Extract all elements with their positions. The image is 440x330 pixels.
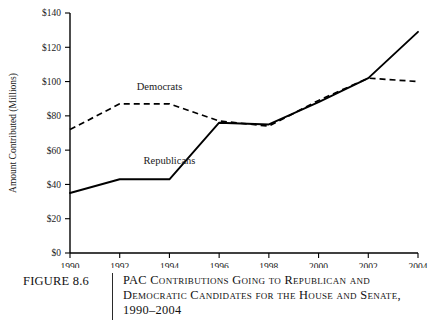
y-tick-label-$80: $80 xyxy=(47,111,62,121)
caption-line-2: 1990–2004 xyxy=(123,303,440,318)
x-tick-label-1994: 1994 xyxy=(160,262,179,268)
y-axis-title: Amount Contributed (Millions) xyxy=(8,73,19,193)
x-tick-label-1998: 1998 xyxy=(259,262,278,268)
series-label-democrats: Democrats xyxy=(137,81,182,92)
x-tick-label-2004: 2004 xyxy=(409,262,428,268)
x-tick-label-2000: 2000 xyxy=(309,262,328,268)
y-tick-label-$100: $100 xyxy=(42,77,61,87)
caption-line-0: PAC Contributions Going to Republican an… xyxy=(123,273,440,288)
x-tick-label-1996: 1996 xyxy=(210,262,229,268)
caption-text: PAC Contributions Going to Republican an… xyxy=(113,272,440,318)
y-tick-label-$140: $140 xyxy=(42,8,61,18)
figure-caption: FIGURE 8.6 PAC Contributions Going to Re… xyxy=(0,272,440,330)
line-chart-svg: $0$20$40$60$80$100$120$140 1990199219941… xyxy=(0,0,440,268)
y-axis-tick-labels: $0$20$40$60$80$100$120$140 xyxy=(42,8,61,258)
y-tick-label-$0: $0 xyxy=(52,248,62,258)
series-line-democrats xyxy=(70,78,418,129)
chart-plot-area: $0$20$40$60$80$100$120$140 1990199219941… xyxy=(0,0,440,268)
y-axis-tick-marks xyxy=(65,13,70,253)
x-tick-label-1992: 1992 xyxy=(110,262,129,268)
series-label-republicans: Republicans xyxy=(143,155,195,166)
x-tick-label-2002: 2002 xyxy=(359,262,378,268)
y-tick-label-$120: $120 xyxy=(42,43,61,53)
x-tick-label-1990: 1990 xyxy=(61,262,80,268)
x-axis-tick-marks xyxy=(70,253,418,258)
figure-container: $0$20$40$60$80$100$120$140 1990199219941… xyxy=(0,0,440,330)
y-tick-label-$20: $20 xyxy=(47,214,62,224)
caption-line-1: Democratic Candidates for the House and … xyxy=(123,288,440,303)
y-tick-label-$40: $40 xyxy=(47,180,62,190)
x-axis-tick-labels: 19901992199419961998200020022004 xyxy=(61,262,428,268)
y-tick-label-$60: $60 xyxy=(47,146,62,156)
series-line-republicans xyxy=(70,32,418,193)
figure-number-label: FIGURE 8.6 xyxy=(0,272,112,289)
